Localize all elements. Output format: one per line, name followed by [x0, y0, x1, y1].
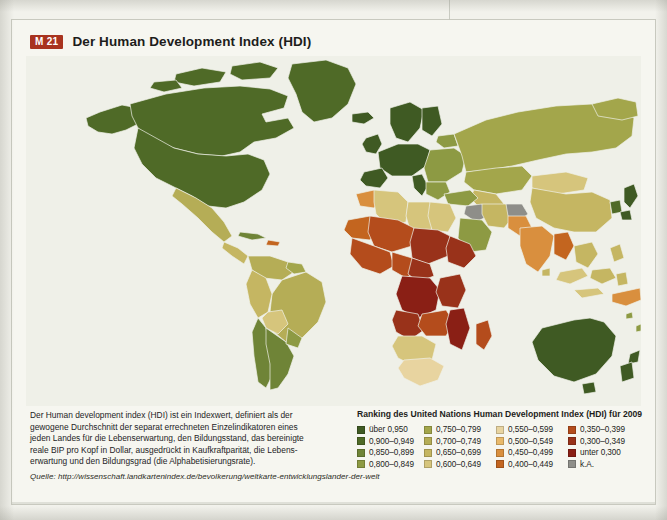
figure-header: M 21 Der Human Development Index (HDI): [30, 34, 311, 49]
region-sulawesi: [616, 272, 628, 286]
legend-column-3: 0,550–0,599 0,500–0,549 0,450–0,499 0,40…: [496, 424, 568, 470]
legend-item[interactable]: 0,300–0,349: [568, 436, 638, 448]
legend-label: 0,900–0,949: [369, 437, 414, 446]
figure-sheet: M 21 Der Human Development Index (HDI): [12, 20, 655, 504]
legend-label: 0,650–0,699: [436, 448, 481, 457]
legend-swatch: [424, 460, 432, 468]
legend-swatch: [424, 426, 432, 434]
legend-swatch: [496, 460, 504, 468]
legend-item[interactable]: 0,400–0,449: [496, 459, 568, 471]
legend-item[interactable]: k.A.: [568, 459, 638, 471]
legend-label: 0,750–0,799: [436, 425, 481, 434]
description-line-4: reale BIP pro Kopf in Dollar, ausgedrück…: [30, 445, 350, 457]
sheet-bottom-rule: [12, 502, 655, 504]
legend-label: über 0,950: [369, 425, 408, 434]
legend-columns: über 0,950 0,900–0,949 0,850–0,899 0,800…: [357, 424, 642, 470]
legend-swatch: [496, 426, 504, 434]
legend-item[interactable]: 0,900–0,949: [357, 436, 424, 448]
legend-item[interactable]: 0,500–0,549: [496, 436, 568, 448]
legend-item[interactable]: 0,350–0,399: [568, 424, 638, 436]
legend-label: 0,400–0,449: [508, 460, 553, 469]
legend-column-4: 0,350–0,399 0,300–0,349 unter 0,300 k.A.: [568, 424, 638, 470]
legend-column-2: 0,750–0,799 0,700–0,749 0,650–0,699 0,60…: [424, 424, 496, 470]
legend-item[interactable]: 0,750–0,799: [424, 424, 496, 436]
description-text: Der Human development index (HDI) ist ei…: [30, 410, 350, 468]
legend-swatch: [424, 437, 432, 445]
legend-swatch: [496, 437, 504, 445]
legend-swatch: [568, 426, 576, 434]
legend-swatch: [357, 437, 365, 445]
page-gutter-rule: [449, 0, 450, 22]
legend-label: 0,700–0,749: [436, 437, 481, 446]
legend-label: 0,450–0,499: [508, 448, 553, 457]
source-label: Quelle:: [30, 472, 56, 481]
legend-label: 0,300–0,349: [580, 437, 625, 446]
legend-swatch: [496, 449, 504, 457]
description-line-1: Der Human development index (HDI) ist ei…: [30, 410, 350, 422]
legend-item[interactable]: 0,700–0,749: [424, 436, 496, 448]
legend-swatch: [357, 449, 365, 457]
source-url[interactable]: http://wissenschaft.landkartenindex.de/b…: [58, 472, 380, 481]
legend-item[interactable]: 0,450–0,499: [496, 447, 568, 459]
legend-label: 0,850–0,899: [369, 448, 414, 457]
region-japan-south: [620, 210, 632, 220]
description-line-2: gewogene Durchschnitt der separat errech…: [30, 422, 350, 434]
legend-item[interactable]: 0,850–0,899: [357, 447, 424, 459]
legend-label: 0,800–0,849: [369, 460, 414, 469]
legend-swatch: [424, 449, 432, 457]
scanned-page: M 21 Der Human Development Index (HDI): [0, 0, 667, 520]
legend-label: 0,350–0,399: [580, 425, 625, 434]
legend-label: 0,500–0,549: [508, 437, 553, 446]
world-map[interactable]: [26, 56, 641, 406]
legend-item[interactable]: unter 0,300: [568, 447, 638, 459]
legend-swatch: [568, 460, 576, 468]
legend-label: unter 0,300: [580, 448, 621, 457]
legend-item[interactable]: 0,600–0,649: [424, 459, 496, 471]
legend-label: 0,600–0,649: [436, 460, 481, 469]
legend-title: Ranking des United Nations Human Develop…: [357, 409, 642, 419]
legend-item[interactable]: über 0,950: [357, 424, 424, 436]
region-new-zealand-south: [620, 362, 634, 382]
legend-column-1: über 0,950 0,900–0,949 0,850–0,899 0,800…: [357, 424, 424, 470]
world-map-svg: [26, 56, 641, 406]
map-legend: Ranking des United Nations Human Develop…: [357, 409, 642, 470]
legend-label: k.A.: [580, 460, 594, 469]
legend-swatch: [357, 426, 365, 434]
source-line: Quelle: http://wissenschaft.landkartenin…: [30, 472, 460, 481]
figure-number-badge: M 21: [30, 35, 63, 49]
legend-item[interactable]: 0,800–0,849: [357, 459, 424, 471]
legend-item[interactable]: 0,550–0,599: [496, 424, 568, 436]
region-tasmania: [582, 382, 596, 394]
legend-item[interactable]: 0,650–0,699: [424, 447, 496, 459]
legend-swatch: [568, 449, 576, 457]
legend-swatch: [568, 437, 576, 445]
legend-swatch: [357, 460, 365, 468]
description-line-5: erwartung und den Bildungsgrad (die Alph…: [30, 456, 350, 468]
legend-label: 0,550–0,599: [508, 425, 553, 434]
description-line-3: jeden Landes für die Lebenserwartung, de…: [30, 433, 350, 445]
page-title: Der Human Development Index (HDI): [72, 34, 311, 49]
